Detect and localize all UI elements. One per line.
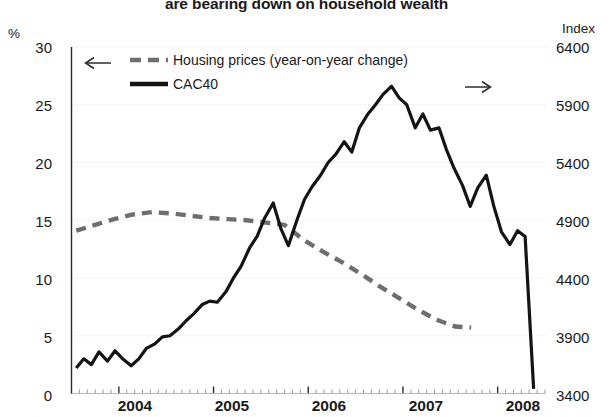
series-line-cac40	[76, 86, 533, 389]
right-arrow-icon	[465, 82, 491, 93]
series-line-housing-prices	[76, 212, 471, 328]
chart-figure: are bearing down on household wealth % I…	[0, 0, 613, 417]
legend-label-housing-prices: Housing prices (year-on-year change)	[173, 52, 408, 68]
x-axis-ticks	[72, 387, 546, 394]
left-arrow-icon	[86, 58, 112, 69]
legend-label-cac40: CAC40	[173, 76, 218, 92]
